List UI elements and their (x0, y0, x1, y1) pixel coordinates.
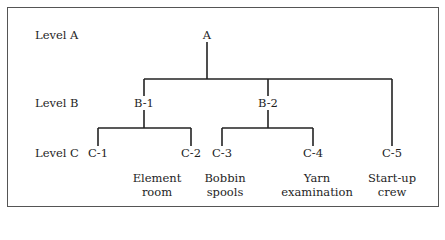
node-c4-desc-line1: Yarn (304, 171, 330, 185)
node-c4: C-4 (303, 146, 323, 160)
node-c5: C-5 (382, 146, 402, 160)
node-c2: C-2 (181, 146, 201, 160)
node-c2-desc-line2: room (142, 185, 172, 199)
node-c5-desc-line1: Start-up (368, 171, 416, 185)
node-c5-desc-line2: crew (378, 185, 407, 199)
level-c-label: Level C (35, 146, 79, 160)
node-c3-desc-line2: spools (207, 185, 244, 199)
level-a-label: Level A (35, 28, 78, 42)
node-b1: B-1 (134, 96, 154, 110)
node-c3: C-3 (212, 146, 232, 160)
node-c2-desc-line1: Element (133, 171, 182, 185)
node-c4-desc-line2: examination (281, 185, 353, 199)
node-c1: C-1 (88, 146, 108, 160)
node-b2: B-2 (258, 96, 278, 110)
node-a: A (203, 28, 211, 42)
level-b-label: Level B (35, 96, 79, 110)
node-c3-desc-line1: Bobbin (204, 171, 245, 185)
